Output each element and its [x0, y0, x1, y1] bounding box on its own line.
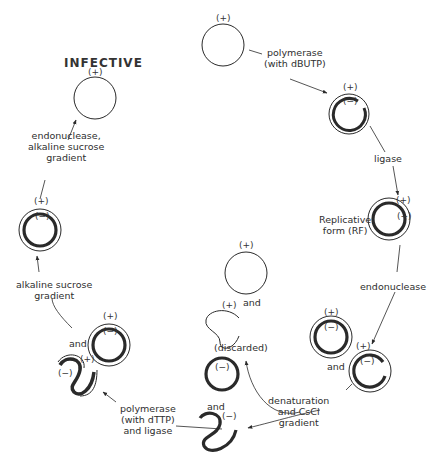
- plus-sign-gapped: (+): [343, 82, 358, 92]
- label-denaturation: denaturation and CsCl gradient: [268, 395, 329, 428]
- minus-sign-bottom-linear: (−): [222, 411, 237, 421]
- plus-sign-discarded-linear: (+): [222, 300, 237, 310]
- infective-circle: [74, 77, 116, 119]
- and-pair: and: [327, 361, 345, 372]
- minus-sign-left-rf: (−): [35, 211, 50, 221]
- minus-sign-left-linear: (−): [58, 368, 73, 378]
- minus-sign-bottom-circle: (−): [215, 362, 230, 372]
- label-replicative-form: Replicative form (RF): [319, 214, 371, 236]
- and-bottom: and: [207, 401, 225, 412]
- plus-sign-pair-a: (+): [324, 307, 339, 317]
- and-left: and: [69, 338, 87, 349]
- plus-sign-top: (+): [216, 13, 231, 23]
- label-ligase: ligase: [374, 153, 402, 164]
- plus-sign-discarded-circle: (+): [239, 240, 254, 250]
- plus-sign-pair-b: (+): [356, 341, 371, 351]
- label-polymerase-dttp: polymerase (with dTTP) and ligase: [120, 403, 176, 436]
- plus-sign-left-linear: (+): [80, 354, 95, 364]
- label-endonuclease-alkaline: endonuclease, alkaline sucrose gradient: [28, 130, 104, 163]
- label-endonuclease: endonuclease: [360, 281, 426, 292]
- minus-sign-left-lower: (−): [103, 326, 118, 336]
- label-polymerase-dbutp: polymerase (with dBUTP): [264, 47, 326, 69]
- minus-sign-pair-a: (−): [324, 322, 339, 332]
- plus-strand-circle-top: [202, 24, 244, 66]
- minus-sign-gapped: (−): [343, 96, 358, 106]
- and-discarded: and: [243, 297, 261, 308]
- label-alkaline-sucrose: alkaline sucrose gradient: [16, 279, 92, 301]
- minus-sign-pair-b: (−): [360, 356, 375, 366]
- minus-sign-rf: (−): [397, 211, 412, 221]
- plus-sign-left-rf: (+): [34, 196, 49, 206]
- discarded-circle: [225, 252, 267, 294]
- infective-title: INFECTIVE: [64, 56, 143, 70]
- plus-sign-infective: (+): [88, 67, 103, 77]
- plus-sign-rf: (+): [396, 195, 411, 205]
- plus-sign-left-lower: (+): [103, 311, 118, 321]
- label-discarded: (discarded): [214, 342, 268, 353]
